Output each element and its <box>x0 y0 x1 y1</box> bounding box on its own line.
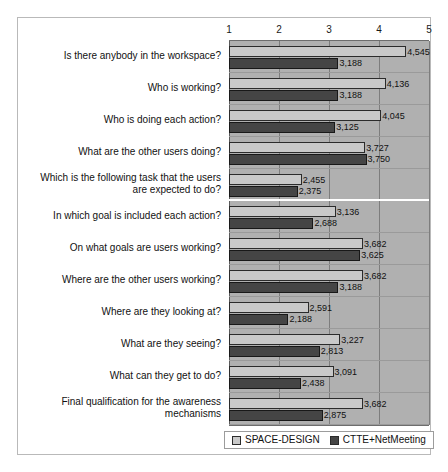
bar-value-label: 2,875 <box>324 410 347 420</box>
x-axis-tick-3: 3 <box>326 24 332 36</box>
category-label-text: Is there anybody in the workspace? <box>64 50 221 62</box>
x-axis-tick-labels: 12345 <box>18 24 430 40</box>
legend-item[interactable]: SPACE-DESIGN <box>232 434 320 446</box>
category-label: What are they seeing? <box>24 328 225 360</box>
bar-space-design: 3,136 <box>229 206 336 217</box>
category-label-text: In which goal is included each action? <box>53 210 221 222</box>
category-label: What are the other users doing? <box>24 136 225 168</box>
bar-value-label: 2,688 <box>314 218 337 228</box>
category-label-text: What are the other users doing? <box>78 146 221 158</box>
bar-space-design: 3,727 <box>229 142 365 153</box>
category-label: Where are the other users working? <box>24 264 225 296</box>
category-label-text: Where are the other users working? <box>62 274 221 286</box>
legend-label: SPACE-DESIGN <box>245 434 320 446</box>
category-label-text: Who is working? <box>148 82 221 94</box>
bar-row: 3,0912,438 <box>229 361 429 393</box>
bar-value-label: 3,188 <box>339 90 362 100</box>
bar-row: 3,6822,875 <box>229 393 429 425</box>
category-label-text: Who is doing each action? <box>104 114 221 126</box>
bar-value-label: 2,438 <box>302 378 325 388</box>
bar-value-label: 2,591 <box>310 303 333 313</box>
bar-space-design: 2,455 <box>229 174 302 185</box>
category-label: Where are they looking at? <box>24 296 225 328</box>
category-label: Who is working? <box>24 72 225 104</box>
bar-row: 3,1362,688 <box>229 201 429 233</box>
bar-value-label: 3,188 <box>339 282 362 292</box>
bar-row: 3,7273,750 <box>229 137 429 169</box>
x-axis-tick-5: 5 <box>426 24 432 36</box>
bar-ctte-netmeeting: 2,188 <box>229 314 288 325</box>
bar-ctte-netmeeting: 3,188 <box>229 282 338 293</box>
bar-value-label: 3,727 <box>366 143 389 153</box>
bar-row: 3,6823,625 <box>229 233 429 265</box>
bar-value-label: 3,136 <box>337 207 360 217</box>
bar-space-design: 4,545 <box>229 46 406 57</box>
bar-row: 2,5912,188 <box>229 297 429 329</box>
bar-ctte-netmeeting: 2,813 <box>229 346 320 357</box>
bar-row: 2,4552,375 <box>229 169 429 201</box>
x-axis-tick-2: 2 <box>276 24 282 36</box>
category-label: Is there anybody in the workspace? <box>24 40 225 72</box>
category-label-text: What are they seeing? <box>121 338 221 350</box>
bar-value-label: 3,682 <box>364 239 387 249</box>
bar-value-label: 3,125 <box>336 122 359 132</box>
bar-space-design: 3,227 <box>229 334 340 345</box>
bar-value-label: 2,455 <box>303 175 326 185</box>
bar-space-design: 3,682 <box>229 398 363 409</box>
category-label: Who is doing each action? <box>24 104 225 136</box>
bar-space-design: 4,136 <box>229 78 386 89</box>
bar-space-design: 2,591 <box>229 302 309 313</box>
bar-value-label: 3,682 <box>364 271 387 281</box>
bar-ctte-netmeeting: 3,188 <box>229 90 338 101</box>
bar-ctte-netmeeting: 2,438 <box>229 378 301 389</box>
bar-value-label: 3,188 <box>339 58 362 68</box>
bar-value-label: 2,375 <box>299 186 322 196</box>
bar-ctte-netmeeting: 3,625 <box>229 250 360 261</box>
bar-ctte-netmeeting: 2,875 <box>229 410 323 421</box>
category-axis-labels: Is there anybody in the workspace?Who is… <box>24 40 225 424</box>
bar-row: 4,0453,125 <box>229 105 429 137</box>
category-label-text: Final qualification for the awareness me… <box>24 396 221 420</box>
category-label-text: Where are they looking at? <box>101 306 221 318</box>
bar-space-design: 4,045 <box>229 110 381 121</box>
bar-space-design: 3,682 <box>229 238 363 249</box>
bar-row: 4,5453,188 <box>229 41 429 73</box>
bar-value-label: 3,227 <box>341 335 364 345</box>
legend-item[interactable]: CTTE+NetMeeting <box>330 434 426 446</box>
bar-value-label: 4,045 <box>382 111 405 121</box>
x-axis-tick-4: 4 <box>376 24 382 36</box>
bar-value-label: 3,750 <box>368 154 391 164</box>
plot-area: 4,5453,1884,1363,1884,0453,1253,7273,750… <box>229 40 429 426</box>
chart-container: 12345 4,5453,1884,1363,1884,0453,1253,72… <box>17 17 431 455</box>
x-axis-tick-1: 1 <box>226 24 232 36</box>
bar-row: 3,2272,813 <box>229 329 429 361</box>
bar-ctte-netmeeting: 3,750 <box>229 154 367 165</box>
bar-ctte-netmeeting: 2,375 <box>229 186 298 197</box>
category-label: In which goal is included each action? <box>24 200 225 232</box>
bar-value-label: 4,136 <box>387 79 410 89</box>
bar-row: 3,6823,188 <box>229 265 429 297</box>
category-label-text: What can they get to do? <box>110 370 221 382</box>
bar-value-label: 3,091 <box>335 367 358 377</box>
legend-label: CTTE+NetMeeting <box>343 434 426 446</box>
bar-ctte-netmeeting: 3,188 <box>229 58 338 69</box>
category-label: On what goals are users working? <box>24 232 225 264</box>
bar-value-label: 4,545 <box>407 47 430 57</box>
bar-space-design: 3,682 <box>229 270 363 281</box>
category-label-text: Which is the following task that the use… <box>24 172 221 196</box>
category-label: What can they get to do? <box>24 360 225 392</box>
chart-legend: SPACE-DESIGNCTTE+NetMeeting <box>224 431 434 449</box>
category-label: Which is the following task that the use… <box>24 168 225 200</box>
bar-row: 4,1363,188 <box>229 73 429 105</box>
category-label-text: On what goals are users working? <box>70 242 221 254</box>
bar-rows: 4,5453,1884,1363,1884,0453,1253,7273,750… <box>229 41 429 425</box>
bar-ctte-netmeeting: 3,125 <box>229 122 335 133</box>
bar-value-label: 2,813 <box>321 346 344 356</box>
legend-swatch-icon <box>232 436 241 445</box>
bar-ctte-netmeeting: 2,688 <box>229 218 313 229</box>
row-separator <box>229 424 429 425</box>
bar-value-label: 3,625 <box>361 250 384 260</box>
bar-space-design: 3,091 <box>229 366 334 377</box>
legend-swatch-icon <box>330 436 339 445</box>
bar-value-label: 3,682 <box>364 399 387 409</box>
